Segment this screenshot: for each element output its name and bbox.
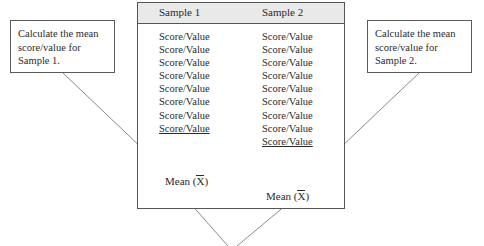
score-value-cell: Score/Value — [262, 82, 313, 95]
diagram-canvas: Calculate the mean score/value for Sampl… — [0, 0, 484, 246]
score-value-cell: Score/Value — [159, 69, 210, 82]
score-value-cell: Score/Value — [262, 122, 313, 135]
mean-close-2: ) — [305, 190, 309, 202]
column-values-sample-1: Score/ValueScore/ValueScore/ValueScore/V… — [159, 30, 210, 135]
score-value-cell: Score/Value — [262, 135, 313, 148]
column-header-sample-1: Sample 1 — [159, 6, 200, 18]
annotation-right-line-3: Sample 2. — [375, 54, 464, 68]
mean-close-1: ) — [204, 175, 208, 187]
annotation-left-line-2: score/value for — [18, 41, 107, 55]
score-value-cell: Score/Value — [159, 95, 210, 108]
score-value-cell: Score/Value — [159, 30, 210, 43]
score-value-cell: Score/Value — [262, 95, 313, 108]
column-values-sample-2: Score/ValueScore/ValueScore/ValueScore/V… — [262, 30, 313, 148]
score-value-cell: Score/Value — [159, 109, 210, 122]
score-value-cell: Score/Value — [159, 56, 210, 69]
mean-text-1: Mean ( — [165, 175, 196, 187]
score-value-cell: Score/Value — [159, 43, 210, 56]
score-value-cell: Score/Value — [262, 30, 313, 43]
mean-label-sample-2: Mean (X) — [266, 190, 309, 202]
column-header-sample-2: Sample 2 — [262, 6, 303, 18]
annotation-box-sample-1: Calculate the mean score/value for Sampl… — [10, 20, 115, 73]
score-value-cell: Score/Value — [262, 69, 313, 82]
annotation-left-line-3: Sample 1. — [18, 54, 107, 68]
table-header-row: Sample 1 Sample 2 — [138, 3, 344, 24]
score-value-cell: Score/Value — [159, 122, 210, 135]
mean-label-sample-1: Mean (X) — [165, 175, 208, 187]
score-value-cell: Score/Value — [262, 43, 313, 56]
score-value-cell: Score/Value — [262, 109, 313, 122]
annotation-right-line-1: Calculate the mean — [375, 27, 464, 41]
annotation-left-line-1: Calculate the mean — [18, 27, 107, 41]
score-value-cell: Score/Value — [262, 56, 313, 69]
mean-text-2: Mean ( — [266, 190, 297, 202]
score-value-cell: Score/Value — [159, 82, 210, 95]
annotation-box-sample-2: Calculate the mean score/value for Sampl… — [367, 20, 472, 73]
sample-data-table: Sample 1 Sample 2 Score/ValueScore/Value… — [137, 2, 345, 209]
annotation-right-line-2: score/value for — [375, 41, 464, 55]
